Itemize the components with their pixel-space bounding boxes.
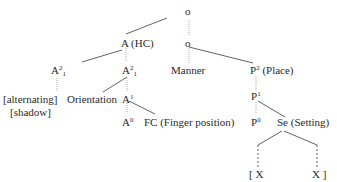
node-x-right-label: X ] [312, 168, 326, 180]
node-p1-sup: 1 [257, 90, 261, 98]
tree-edges [0, 0, 337, 182]
node-a1-sup: 1 [130, 93, 134, 101]
node-a0-label: A [122, 116, 130, 128]
node-manner-label: Manner [171, 64, 205, 76]
node-se-label: Se (Setting) [277, 116, 329, 128]
node-p2-sup: 2 [256, 64, 260, 72]
node-a0-sup: 0 [130, 116, 134, 124]
node-p2-annot: (Place) [262, 64, 293, 76]
node-a-hc: A (HC) [121, 37, 154, 49]
node-fc: FC (Finger position) [144, 116, 234, 128]
node-root: o [185, 5, 191, 17]
node-alternating-label: [alternating] [3, 93, 57, 105]
node-a-hc-annot: (HC) [131, 37, 154, 49]
node-a21-right-label: A [122, 64, 130, 76]
node-x-left-label: [ X [249, 168, 263, 180]
node-a21-right-sub: 1 [133, 70, 137, 78]
edge-se-xright [284, 131, 317, 145]
node-p2: P2 (Place) [250, 64, 294, 76]
edge-ahc-a21left [82, 50, 122, 62]
node-root-label: o [185, 5, 191, 17]
node-p1: P1 [251, 90, 261, 102]
node-a21-right: A21 [122, 64, 137, 76]
node-x-left: [ X [249, 168, 263, 180]
node-p0-sup: 0 [257, 116, 261, 124]
edge-p1-se [258, 101, 285, 117]
node-o2-label: o [185, 37, 191, 49]
node-a21-left: A21 [51, 64, 66, 76]
node-a-hc-label: A [121, 37, 128, 49]
edge-a21right-orientation [103, 77, 127, 92]
node-a21-left-label: A [51, 64, 59, 76]
node-manner: Manner [171, 64, 205, 76]
node-a1-label: A [122, 93, 130, 105]
node-a1: A1 [122, 93, 133, 105]
node-fc-label: FC (Finger position) [144, 116, 234, 128]
edge-root-ahc [126, 18, 167, 34]
node-p0: P0 [251, 116, 261, 128]
node-shadow-label: [shadow] [10, 106, 51, 118]
edge-o2-p2 [189, 47, 253, 63]
edge-se-xleft [258, 131, 282, 145]
node-orientation: Orientation [67, 93, 117, 105]
node-se: Se (Setting) [277, 116, 329, 128]
node-a0: A0 [122, 116, 133, 128]
node-o2: o [185, 37, 191, 49]
node-x-right: X ] [312, 168, 326, 180]
node-a21-left-sub: 1 [62, 70, 66, 78]
node-alternating: [alternating] [3, 93, 57, 105]
node-orientation-label: Orientation [67, 93, 117, 105]
node-shadow: [shadow] [10, 106, 51, 118]
